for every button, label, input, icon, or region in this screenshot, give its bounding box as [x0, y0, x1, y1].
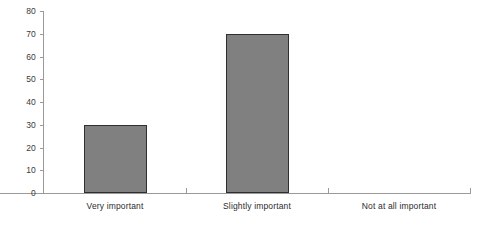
y-axis-tick-label: 80 [10, 7, 36, 16]
y-axis-tick-label: 20 [10, 144, 36, 153]
y-axis-tick-label: 70 [10, 30, 36, 39]
y-axis-tick [40, 79, 44, 80]
y-axis-tick [40, 11, 44, 12]
y-axis-tick [40, 193, 44, 194]
y-axis-tick [40, 57, 44, 58]
x-axis-category-tick [186, 188, 187, 194]
y-axis-tick [40, 148, 44, 149]
x-axis-category-label: Not at all important [328, 202, 470, 211]
x-axis-category-label: Very important [44, 202, 186, 211]
x-axis-line [44, 193, 471, 194]
y-axis-tick-label: 0 [10, 189, 36, 198]
y-axis-tick [40, 102, 44, 103]
bar-chart: 01020304050607080 Very importantSlightly… [0, 0, 479, 227]
y-axis-tick-label: 40 [10, 98, 36, 107]
x-axis-category-tick [328, 188, 329, 194]
y-axis-tick [40, 170, 44, 171]
y-axis-tick [40, 125, 44, 126]
x-axis-category-label: Slightly important [186, 202, 328, 211]
bar [84, 125, 147, 193]
y-axis-tick [40, 34, 44, 35]
y-axis-tick-label: 30 [10, 121, 36, 130]
y-axis-tick-label: 50 [10, 75, 36, 84]
y-axis-tick-label: 60 [10, 53, 36, 62]
bar [226, 34, 289, 193]
y-axis-tick-label: 10 [10, 166, 36, 175]
x-axis-end-tick [470, 188, 471, 194]
